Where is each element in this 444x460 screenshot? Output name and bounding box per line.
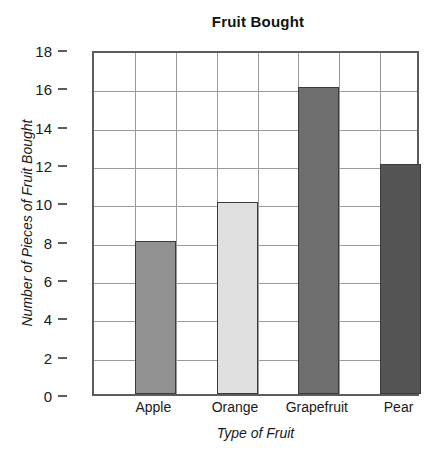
y-tick-label: 4 <box>44 311 52 328</box>
bar-apple[interactable] <box>135 241 176 394</box>
x-tick-label-pear: Pear <box>384 399 414 415</box>
y-tick-mark <box>58 242 67 244</box>
y-tick-label: 18 <box>35 43 52 60</box>
y-tick-mark <box>58 127 67 129</box>
x-tick-label-grapefruit: Grapefruit <box>286 399 348 415</box>
y-tick-mark <box>58 280 67 282</box>
plot-area <box>92 51 419 396</box>
y-tick-label: 6 <box>44 273 52 290</box>
y-tick-mark <box>58 395 67 397</box>
x-axis: AppleOrangeGrapefruitPear <box>92 399 419 421</box>
y-tick-mark <box>58 318 67 320</box>
chart-title: Fruit Bought <box>0 13 444 30</box>
x-tick-label-orange: Orange <box>212 399 259 415</box>
bar-chart: Fruit Bought Number of Pieces of Fruit B… <box>0 0 444 460</box>
y-tick-mark <box>58 203 67 205</box>
bar-pear[interactable] <box>380 164 421 394</box>
y-tick-mark <box>58 165 67 167</box>
bars-group <box>94 53 417 394</box>
y-tick-label: 16 <box>35 81 52 98</box>
y-tick-mark <box>58 357 67 359</box>
x-tick-label-apple: Apple <box>135 399 171 415</box>
y-axis: 024681012141618 <box>0 0 92 460</box>
y-tick-label: 12 <box>35 158 52 175</box>
y-tick-label: 0 <box>44 388 52 405</box>
y-axis-title: Number of Pieces of Fruit Bought <box>19 120 35 327</box>
bar-orange[interactable] <box>217 202 258 394</box>
y-tick-label: 10 <box>35 196 52 213</box>
y-tick-mark <box>58 88 67 90</box>
bar-grapefruit[interactable] <box>298 87 339 394</box>
x-axis-title: Type of Fruit <box>92 425 419 441</box>
y-tick-label: 2 <box>44 349 52 366</box>
y-tick-mark <box>58 50 67 52</box>
y-tick-label: 8 <box>44 234 52 251</box>
y-tick-label: 14 <box>35 119 52 136</box>
